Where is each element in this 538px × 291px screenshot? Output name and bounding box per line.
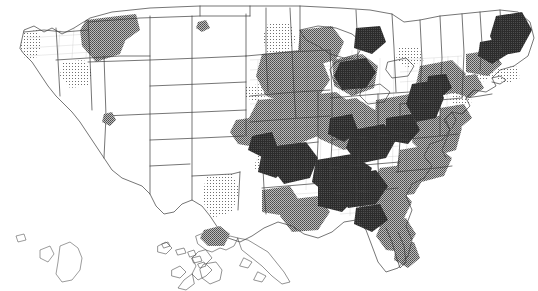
us-county-choropleth-map: [0, 0, 538, 291]
choropleth-figure: ge ge: [0, 0, 538, 291]
